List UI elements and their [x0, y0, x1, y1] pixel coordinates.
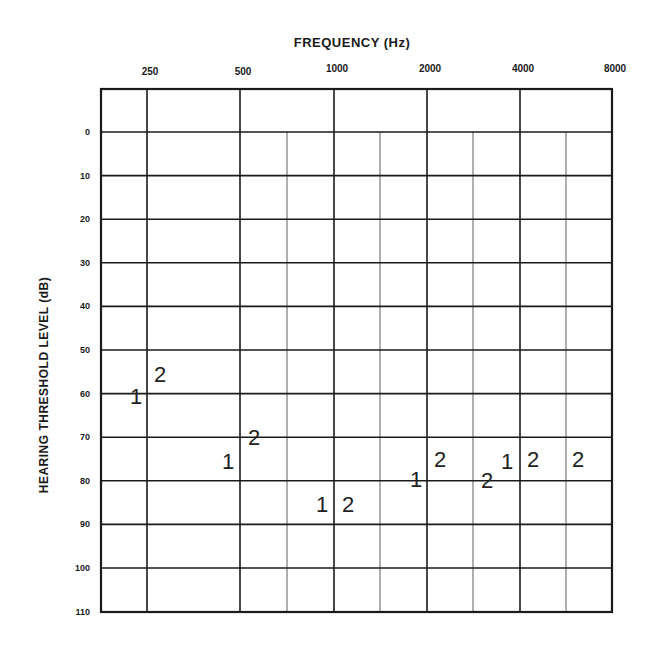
- marker-2: 2: [154, 364, 166, 386]
- marker-1: 1: [130, 386, 142, 408]
- marker-1: 1: [222, 451, 234, 473]
- marker-2: 2: [434, 449, 446, 471]
- marker-1: 1: [501, 451, 513, 473]
- marker-1: 1: [316, 494, 328, 516]
- marker-2: 2: [527, 449, 539, 471]
- marker-2: 2: [572, 449, 584, 471]
- marker-1: 1: [410, 469, 422, 491]
- marker-2: 2: [342, 494, 354, 516]
- audiogram-grid: [0, 0, 652, 648]
- marker-2: 2: [481, 470, 493, 492]
- marker-2: 2: [248, 427, 260, 449]
